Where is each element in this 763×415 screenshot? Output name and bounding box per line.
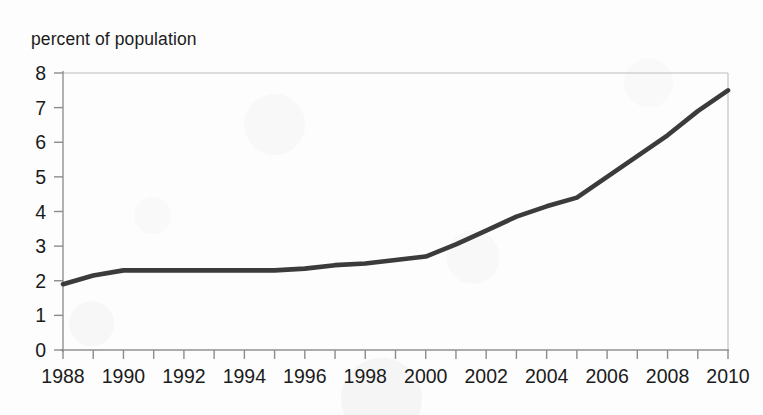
y-tick-label-3: 3 — [35, 235, 46, 257]
x-tick-label-2000: 2000 — [404, 365, 448, 387]
y-tick-label-2: 2 — [35, 270, 46, 292]
line-chart-plot: 012345678 198819901992199419961998200020… — [0, 0, 763, 415]
y-tick-label-4: 4 — [35, 201, 46, 223]
x-tick-label-2006: 2006 — [585, 365, 628, 387]
y-axis-tick-labels: 012345678 — [35, 62, 46, 361]
y-axis-ticks — [54, 73, 63, 350]
data-series-group — [63, 90, 728, 284]
x-tick-label-1994: 1994 — [223, 365, 267, 387]
x-tick-label-1998: 1998 — [344, 365, 387, 387]
y-tick-label-7: 7 — [35, 97, 46, 119]
x-tick-label-2010: 2010 — [706, 365, 750, 387]
x-tick-label-2008: 2008 — [646, 365, 689, 387]
x-tick-label-1988: 1988 — [41, 365, 84, 387]
x-tick-label-1992: 1992 — [162, 365, 205, 387]
y-tick-label-8: 8 — [35, 62, 46, 84]
plot-frame — [61, 71, 729, 352]
y-tick-label-1: 1 — [35, 304, 46, 326]
x-tick-label-1990: 1990 — [102, 365, 146, 387]
x-tick-label-2004: 2004 — [525, 365, 569, 387]
x-tick-label-1996: 1996 — [283, 365, 326, 387]
y-tick-label-5: 5 — [35, 166, 46, 188]
x-axis-ticks — [63, 350, 728, 359]
series-line-0 — [63, 90, 728, 284]
x-axis-tick-labels: 1988199019921994199619982000200220042006… — [41, 365, 750, 387]
y-tick-label-0: 0 — [35, 339, 46, 361]
x-tick-label-2002: 2002 — [464, 365, 507, 387]
y-tick-label-6: 6 — [35, 131, 46, 153]
